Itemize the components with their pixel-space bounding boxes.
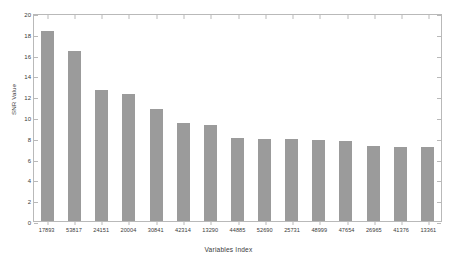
bar[interactable] bbox=[204, 125, 217, 221]
x-tick-mark bbox=[102, 221, 103, 225]
y-tick-mark bbox=[34, 77, 38, 78]
x-tick-label: 52690 bbox=[257, 227, 273, 233]
y-tick-mark bbox=[34, 119, 38, 120]
y-tick-label: 2 bbox=[28, 199, 31, 205]
y-tick-label: 4 bbox=[28, 178, 31, 184]
y-tick-label: 10 bbox=[24, 116, 31, 122]
bar[interactable] bbox=[285, 139, 298, 221]
x-tick-mark bbox=[238, 221, 239, 225]
x-tick-mark bbox=[47, 15, 48, 19]
x-tick-label: 44885 bbox=[230, 227, 246, 233]
x-tick-label: 13361 bbox=[420, 227, 436, 233]
bar[interactable] bbox=[394, 147, 407, 221]
x-tick-mark bbox=[402, 15, 403, 19]
y-tick-mark bbox=[34, 140, 38, 141]
x-tick-mark bbox=[211, 15, 212, 19]
y-tick-mark bbox=[34, 36, 38, 37]
x-tick-mark bbox=[402, 221, 403, 225]
x-tick-mark bbox=[320, 15, 321, 19]
x-tick-mark bbox=[238, 15, 239, 19]
x-tick-mark bbox=[211, 221, 212, 225]
x-tick-label: 42314 bbox=[175, 227, 191, 233]
y-tick-label: 18 bbox=[24, 33, 31, 39]
y-tick-label: 20 bbox=[24, 12, 31, 18]
y-tick-mark bbox=[34, 57, 38, 58]
x-tick-mark bbox=[374, 15, 375, 19]
y-tick-mark bbox=[437, 202, 441, 203]
x-tick-label: 13290 bbox=[202, 227, 218, 233]
x-tick-mark bbox=[47, 221, 48, 225]
bar[interactable] bbox=[122, 94, 135, 221]
x-tick-mark bbox=[429, 221, 430, 225]
y-tick-mark bbox=[34, 202, 38, 203]
y-tick-label: 12 bbox=[24, 95, 31, 101]
x-tick-label: 17893 bbox=[39, 227, 55, 233]
y-tick-mark bbox=[437, 161, 441, 162]
bar[interactable] bbox=[421, 147, 434, 221]
x-tick-mark bbox=[183, 221, 184, 225]
x-tick-label: 53817 bbox=[66, 227, 82, 233]
x-tick-mark bbox=[347, 15, 348, 19]
x-tick-mark bbox=[156, 15, 157, 19]
x-tick-mark bbox=[265, 15, 266, 19]
x-tick-mark bbox=[374, 221, 375, 225]
y-tick-mark bbox=[437, 181, 441, 182]
x-tick-mark bbox=[74, 221, 75, 225]
bar[interactable] bbox=[177, 123, 190, 221]
x-axis-title: Variables Index bbox=[0, 246, 457, 253]
x-tick-mark bbox=[265, 221, 266, 225]
y-tick-label: 0 bbox=[28, 220, 31, 226]
x-tick-mark bbox=[293, 221, 294, 225]
x-tick-label: 41376 bbox=[393, 227, 409, 233]
x-tick-mark bbox=[102, 15, 103, 19]
x-tick-mark bbox=[347, 221, 348, 225]
x-tick-mark bbox=[429, 15, 430, 19]
x-tick-label: 26965 bbox=[366, 227, 382, 233]
x-tick-mark bbox=[129, 221, 130, 225]
bar[interactable] bbox=[68, 51, 81, 221]
x-tick-mark bbox=[183, 15, 184, 19]
y-tick-mark bbox=[437, 119, 441, 120]
bar[interactable] bbox=[258, 139, 271, 221]
x-tick-label: 30841 bbox=[148, 227, 164, 233]
figure-canvas: SNR Value 02468101214161820 Variables In… bbox=[0, 0, 457, 267]
y-tick-mark bbox=[437, 140, 441, 141]
x-tick-mark bbox=[74, 15, 75, 19]
y-tick-mark bbox=[34, 15, 38, 16]
y-tick-label: 6 bbox=[28, 158, 31, 164]
x-tick-mark bbox=[156, 221, 157, 225]
bar[interactable] bbox=[150, 109, 163, 221]
y-tick-mark bbox=[34, 161, 38, 162]
bar-series bbox=[34, 15, 441, 221]
y-tick-label: 14 bbox=[24, 74, 31, 80]
y-tick-mark bbox=[437, 57, 441, 58]
x-tick-label: 25731 bbox=[284, 227, 300, 233]
bar[interactable] bbox=[95, 90, 108, 221]
y-tick-label: 8 bbox=[28, 137, 31, 143]
y-tick-label: 16 bbox=[24, 54, 31, 60]
y-tick-mark bbox=[34, 181, 38, 182]
x-tick-label: 48999 bbox=[311, 227, 327, 233]
y-tick-mark bbox=[34, 223, 38, 224]
x-tick-label: 20004 bbox=[121, 227, 137, 233]
y-tick-mark bbox=[437, 223, 441, 224]
x-tick-label: 24151 bbox=[93, 227, 109, 233]
bar[interactable] bbox=[41, 31, 54, 221]
y-tick-mark bbox=[34, 98, 38, 99]
bar[interactable] bbox=[339, 141, 352, 221]
y-tick-mark bbox=[437, 15, 441, 16]
bar[interactable] bbox=[231, 138, 244, 221]
x-tick-mark bbox=[320, 221, 321, 225]
plot-area: 02468101214161820 bbox=[33, 14, 442, 222]
x-tick-mark bbox=[293, 15, 294, 19]
x-tick-label: 47654 bbox=[339, 227, 355, 233]
x-tick-mark bbox=[129, 15, 130, 19]
bar[interactable] bbox=[312, 140, 325, 221]
y-tick-mark bbox=[437, 77, 441, 78]
y-axis-title: SNR Value bbox=[10, 65, 17, 135]
y-tick-mark bbox=[437, 36, 441, 37]
bar[interactable] bbox=[367, 146, 380, 221]
y-tick-mark bbox=[437, 98, 441, 99]
